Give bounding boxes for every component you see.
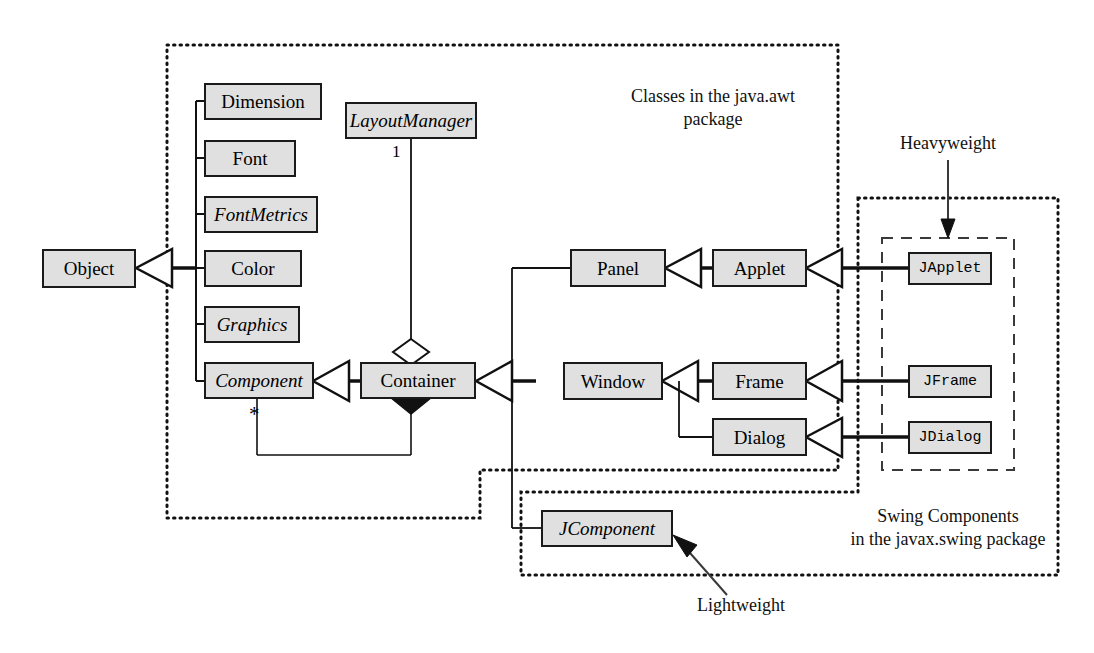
generalization-triangle-window (662, 361, 698, 401)
uml-class-diagram: Object Dimension Font FontMetrics Color … (0, 0, 1094, 653)
generalization-triangle-component (313, 361, 349, 401)
generalization-triangle-applet (806, 249, 842, 287)
class-label-frame: Frame (735, 372, 784, 391)
awt-package-label-line1: Classes in the java.awt (603, 85, 823, 108)
class-label-object: Object (64, 259, 115, 278)
class-box-jdialog[interactable]: JDialog (908, 421, 992, 454)
class-label-dialog: Dialog (734, 428, 786, 447)
class-box-graphics[interactable]: Graphics (204, 306, 300, 343)
class-label-dimension: Dimension (221, 92, 304, 111)
class-label-font: Font (233, 149, 268, 168)
class-box-applet[interactable]: Applet (712, 249, 807, 287)
heavyweight-annotation-label: Heavyweight (880, 132, 1016, 155)
class-label-layoutmanager: LayoutManager (350, 111, 472, 130)
class-box-container[interactable]: Container (360, 362, 476, 399)
swing-package-label: Swing Components in the javax.swing pack… (828, 505, 1068, 550)
class-box-color[interactable]: Color (204, 250, 302, 287)
lightweight-arrow-shaft (683, 545, 727, 595)
class-box-window[interactable]: Window (563, 362, 663, 400)
class-box-dialog[interactable]: Dialog (712, 418, 807, 456)
class-label-jcomponent: JComponent (559, 519, 655, 538)
swing-package-label-line1: Swing Components (828, 505, 1068, 528)
multiplicity-component-star: * (249, 402, 260, 427)
class-box-object[interactable]: Object (42, 249, 136, 288)
class-box-font[interactable]: Font (204, 140, 296, 177)
awt-package-label-line2: package (603, 108, 823, 131)
generalization-triangle-panel (665, 249, 701, 287)
lightweight-arrow-head (673, 535, 697, 557)
heavyweight-arrow-head (941, 219, 955, 238)
generalization-triangle-object (136, 249, 172, 287)
class-label-panel: Panel (597, 259, 639, 278)
multiplicity-layoutmanager: 1 (392, 142, 401, 162)
lightweight-annotation-label: Lightweight (677, 594, 805, 617)
class-box-frame[interactable]: Frame (712, 362, 807, 400)
class-label-fontmetrics: FontMetrics (214, 205, 308, 224)
class-label-graphics: Graphics (217, 315, 288, 334)
class-box-component[interactable]: Component (204, 362, 314, 399)
class-box-japplet[interactable]: JApplet (908, 252, 992, 285)
class-box-jcomponent[interactable]: JComponent (541, 510, 673, 547)
class-box-panel[interactable]: Panel (570, 249, 666, 287)
class-label-window: Window (581, 372, 646, 391)
generalization-triangle-container (476, 361, 512, 401)
class-box-fontmetrics[interactable]: FontMetrics (204, 196, 318, 233)
class-label-japplet: JApplet (918, 261, 981, 276)
class-label-jdialog: JDialog (918, 430, 981, 445)
swing-package-label-line2: in the javax.swing package (828, 528, 1068, 551)
class-label-applet: Applet (734, 259, 786, 278)
connector-layer (0, 0, 1094, 653)
class-box-jframe[interactable]: JFrame (908, 365, 992, 398)
class-label-component: Component (215, 371, 303, 390)
awt-package-label: Classes in the java.awt package (603, 85, 823, 130)
generalization-triangle-frame (806, 361, 842, 401)
class-label-container: Container (381, 371, 456, 390)
class-label-jframe: JFrame (923, 374, 977, 389)
class-label-color: Color (231, 259, 274, 278)
class-box-dimension[interactable]: Dimension (204, 83, 322, 120)
class-box-layoutmanager[interactable]: LayoutManager (345, 102, 477, 139)
generalization-triangle-dialog (806, 418, 842, 457)
